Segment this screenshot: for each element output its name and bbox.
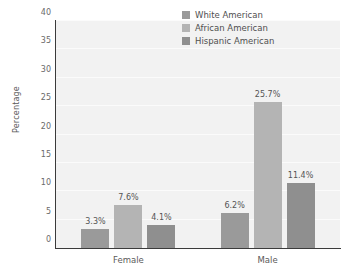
bar-value-label: 3.3% <box>85 217 105 226</box>
legend-item[interactable]: Hispanic American <box>182 34 274 47</box>
y-axis-tick-label: 35 <box>41 36 51 45</box>
y-axis-title: Percentage <box>12 70 21 150</box>
bar-value-label: 4.1% <box>151 213 171 222</box>
y-axis-tick-label: 40 <box>41 8 51 17</box>
x-axis-tick-label: Male <box>258 255 278 265</box>
bar[interactable] <box>147 225 175 248</box>
bar-group: 3.3%7.6%4.1% <box>81 21 175 248</box>
bar-value-label: 6.2% <box>224 201 244 210</box>
y-axis-tick-label: 10 <box>41 178 51 187</box>
legend-label: White American <box>195 10 263 20</box>
bar[interactable] <box>221 213 249 248</box>
y-axis-tick-label: 25 <box>41 93 51 102</box>
y-axis-tick-label: 30 <box>41 64 51 73</box>
legend-label: Hispanic American <box>195 36 274 46</box>
y-axis-tick-label: 15 <box>41 149 51 158</box>
bar-chart-figure: Percentage 0510152025303540 3.3%7.6%4.1%… <box>0 0 355 276</box>
bar[interactable] <box>114 205 142 248</box>
bar-value-label: 7.6% <box>118 193 138 202</box>
bar-value-label: 11.4% <box>288 171 313 180</box>
plot-area: 0510152025303540 3.3%7.6%4.1%6.2%25.7%11… <box>56 21 340 248</box>
legend-swatch-icon <box>182 37 190 45</box>
legend-item[interactable]: African American <box>182 21 274 34</box>
y-axis-tick-label: 5 <box>46 206 51 215</box>
x-axis-tick-label: Female <box>113 255 144 265</box>
legend-item[interactable]: White American <box>182 8 274 21</box>
legend-swatch-icon <box>182 24 190 32</box>
bar[interactable] <box>287 183 315 248</box>
bar[interactable] <box>81 229 109 248</box>
y-axis-tick-label: 0 <box>46 235 51 244</box>
legend-swatch-icon <box>182 11 190 19</box>
bar-value-label: 25.7% <box>255 90 280 99</box>
bar[interactable] <box>254 102 282 248</box>
bar-group: 6.2%25.7%11.4% <box>221 21 315 248</box>
chart-legend: White AmericanAfrican AmericanHispanic A… <box>182 8 274 47</box>
legend-label: African American <box>195 23 268 33</box>
y-axis-tick-label: 20 <box>41 121 51 130</box>
